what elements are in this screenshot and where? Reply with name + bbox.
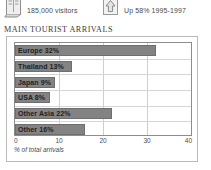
bar-label: Japan 9% [18,77,51,88]
stat-visitors-label: 185,000 visitors [27,7,78,14]
stat-visitors: 185,000 visitors [4,0,101,21]
bar-label: Other 16% [18,124,54,135]
bar-label: Thailand 13% [18,61,64,72]
plot-area: Europe 32%Thailand 13%Japan 9%USA 8%Othe… [14,42,192,136]
open-book-icon [4,0,23,21]
stat-growth-label: Up 58% 1995-1997 [124,7,186,14]
page-title: MAIN TOURIST ARRIVALS [0,22,211,34]
x-tick-label: 30 [143,137,150,144]
bar-row: Japan 9% [15,77,193,88]
chart-panel: Europe 32%Thailand 13%Japan 9%USA 8%Othe… [6,36,198,162]
x-tick-label: 40 [185,137,192,144]
x-axis-caption: % of total arrivals [14,146,64,153]
plot-wrapper: Europe 32%Thailand 13%Japan 9%USA 8%Othe… [14,42,192,158]
bar-row: Other 16% [15,124,193,135]
bar-label: Other Asia 22% [18,108,71,119]
bar-label: Europe 32% [18,45,59,56]
x-tick-label: 10 [55,137,62,144]
stat-growth: Up 58% 1995-1997 [101,0,211,21]
bar-label: USA 8% [18,92,45,103]
bar-row: Europe 32% [15,45,193,56]
x-tick-label: 20 [99,137,106,144]
x-tick-label: 0 [14,137,18,144]
bar-row: USA 8% [15,92,193,103]
bar-row: Other Asia 22% [15,108,193,119]
up-arrow-icon [101,0,120,21]
bar-series: Europe 32%Thailand 13%Japan 9%USA 8%Othe… [15,43,191,135]
bar-row: Thailand 13% [15,61,193,72]
stats-row: 185,000 visitors Up 58% 1995-1997 [0,0,211,22]
